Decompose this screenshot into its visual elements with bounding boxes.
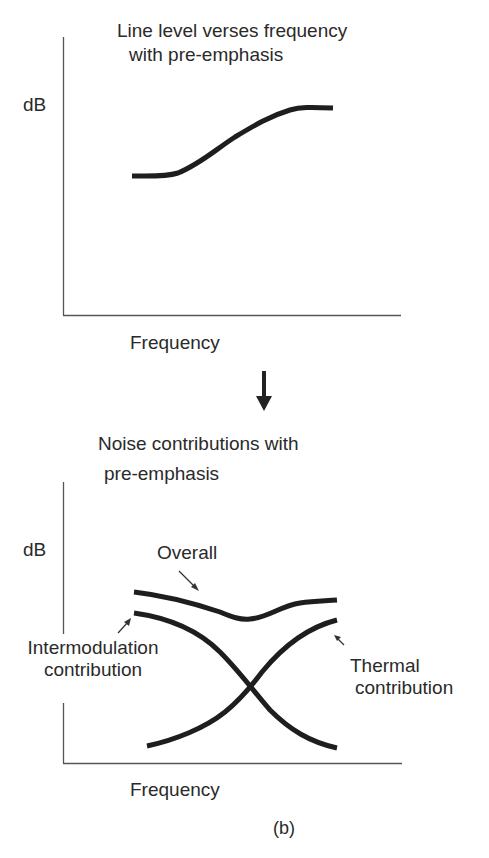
intermod-pointer-icon (118, 618, 131, 633)
top-axes (63, 37, 401, 316)
bottom-y-axis-label: dB (23, 539, 46, 561)
thermal-label: Thermal contribution (345, 655, 475, 699)
bottom-chart-title-line2: pre-emphasis (104, 463, 219, 485)
top-x-axis-label: Frequency (130, 332, 220, 354)
intermodulation-label-line2: contribution (8, 659, 178, 681)
thermal-label-line2: contribution (345, 677, 475, 699)
intermodulation-label-line1: Intermodulation (8, 637, 178, 659)
diagram-canvas (0, 0, 489, 858)
figure-caption: (b) (273, 817, 295, 839)
thermal-pointer-icon (334, 635, 344, 645)
top-chart-title-line1: Line level verses frequency (117, 20, 347, 42)
down-arrow-icon (256, 371, 272, 411)
top-chart-title-line2: with pre-emphasis (129, 44, 283, 66)
overall-pointer-icon (179, 571, 199, 591)
bottom-axes (63, 482, 402, 764)
bottom-x-axis-label: Frequency (130, 779, 220, 801)
overall-curve (134, 592, 337, 619)
bottom-chart-title-line1: Noise contributions with (98, 433, 299, 455)
top-y-axis-label: dB (23, 94, 46, 116)
intermodulation-label: Intermodulation contribution (8, 637, 178, 681)
line-level-curve (132, 107, 333, 176)
thermal-label-line1: Thermal (345, 655, 475, 677)
overall-label: Overall (157, 542, 217, 564)
